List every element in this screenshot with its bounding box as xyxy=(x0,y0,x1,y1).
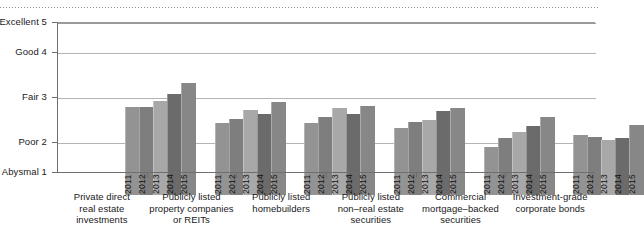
bar-year-label-wrap: 2015 xyxy=(361,161,375,195)
bar-2015-group-0[interactable]: 2015 xyxy=(181,83,196,195)
bar-2015-group-5[interactable]: 2015 xyxy=(629,125,644,195)
top-dotted-rule xyxy=(0,7,598,8)
category-label-0: Private direct real estate investments xyxy=(57,191,147,226)
bar-year-label-wrap: 2015 xyxy=(451,161,465,195)
gridline-5 xyxy=(58,23,596,24)
y-axis-label-1: Abysmal 1 xyxy=(2,167,47,177)
category-label-4: Commercial mortgage–backed securities xyxy=(416,191,506,226)
bar-year-label-wrap: 2015 xyxy=(182,161,196,195)
bar-year-label: 2015 xyxy=(627,174,637,194)
bar-year-label-wrap: 2015 xyxy=(272,161,286,195)
x-axis-separator-4 xyxy=(505,172,506,178)
bar-2015-group-1[interactable]: 2015 xyxy=(271,102,286,195)
x-axis-separator-1 xyxy=(236,172,237,178)
y-axis-label-3: Fair 3 xyxy=(22,92,47,102)
category-label-5: Investment-grade corporate bonds xyxy=(505,191,595,214)
category-label-2: Publicly listed homebuilders xyxy=(236,191,326,214)
x-axis-separator-0 xyxy=(147,172,148,178)
bar-year-label: 2014 xyxy=(613,174,623,194)
x-axis-separator-2 xyxy=(326,172,327,178)
y-axis-label-4: Good 4 xyxy=(15,47,47,57)
bar-year-label-wrap: 2015 xyxy=(630,161,644,195)
bar-year-label-wrap: 2015 xyxy=(541,161,555,195)
bar-2015-group-4[interactable]: 2015 xyxy=(540,117,555,195)
x-axis-separator-3 xyxy=(416,172,417,178)
y-axis-label-5: Excellent 5 xyxy=(0,17,47,27)
bar-2015-group-3[interactable]: 2015 xyxy=(450,108,465,195)
plot-area: 2011201220132014201520112012201320142015… xyxy=(57,22,595,172)
bar-2015-group-2[interactable]: 2015 xyxy=(360,106,375,195)
y-axis-label-2: Poor 2 xyxy=(18,137,47,147)
category-label-1: Publicly listed property companies or RE… xyxy=(147,191,237,226)
bar-year-label: 2013 xyxy=(599,174,609,194)
category-label-3: Publicly listed non–real estate securiti… xyxy=(326,191,416,226)
